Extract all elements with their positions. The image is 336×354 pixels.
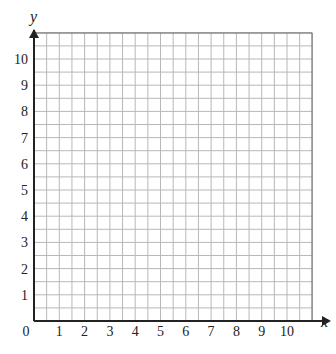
x-tick-label: 6 [182, 324, 189, 339]
x-tick-label: 9 [258, 324, 265, 339]
y-axis [29, 29, 39, 321]
y-tick-label: 6 [21, 157, 28, 172]
x-tick-label: 10 [280, 324, 294, 339]
y-tick-label: 1 [21, 288, 28, 303]
x-tick-label: 4 [132, 324, 139, 339]
x-tick-label: 7 [208, 324, 215, 339]
x-axis-label: x [320, 313, 328, 330]
x-tick-label: 8 [233, 324, 240, 339]
y-tick-label: 2 [21, 262, 28, 277]
y-tick-label: 3 [21, 235, 28, 250]
grid-lines [34, 33, 312, 321]
y-tick-label: 4 [21, 209, 28, 224]
x-tick-labels: 012345678910 [23, 324, 295, 339]
y-tick-label: 7 [21, 131, 28, 146]
y-tick-label: 9 [21, 78, 28, 93]
x-tick-label: 3 [106, 324, 113, 339]
x-tick-label: 1 [56, 324, 63, 339]
y-axis-label: y [28, 8, 38, 26]
x-tick-label: 5 [157, 324, 164, 339]
x-tick-label: 0 [23, 324, 30, 339]
x-tick-label: 2 [81, 324, 88, 339]
y-tick-label: 5 [21, 183, 28, 198]
coordinate-grid: 012345678910 12345678910 x y [0, 0, 336, 354]
y-tick-labels: 12345678910 [14, 52, 28, 303]
y-tick-label: 10 [14, 52, 28, 67]
y-tick-label: 8 [21, 104, 28, 119]
